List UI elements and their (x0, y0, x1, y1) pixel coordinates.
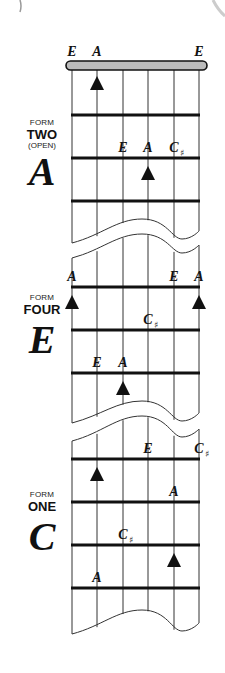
form-key: A (12, 152, 72, 192)
decor-layer (20, 0, 225, 16)
note-name: A (66, 269, 76, 284)
sharp-sign: ♯ (180, 148, 184, 158)
root-marker-triangle (192, 295, 206, 309)
root-marker-triangle (116, 381, 130, 395)
root-marker-triangle (167, 553, 181, 567)
note-name: A (168, 484, 178, 499)
form-number: TWO (12, 128, 72, 141)
note-name: E (193, 44, 203, 59)
note-label: E (142, 441, 152, 456)
form-two-label: FORM TWO (OPEN) A (12, 118, 72, 192)
note-name: C (118, 527, 128, 542)
corner-mark-left (20, 0, 21, 12)
form-key: E (12, 320, 72, 360)
break-wave-bottom (72, 219, 199, 243)
note-name: A (91, 570, 101, 585)
note-label: A (117, 355, 127, 370)
note-name: C (169, 140, 179, 155)
note-label: A (142, 140, 152, 155)
break-layer (72, 219, 199, 634)
frets-layer (66, 61, 207, 588)
root-marker-triangle (90, 467, 104, 481)
corner-arc-right (213, 0, 225, 16)
note-name: A (91, 44, 101, 59)
nut (66, 61, 207, 70)
note-label: C♯ (194, 441, 209, 459)
break-wave-bottom (72, 610, 199, 634)
note-name: A (193, 269, 203, 284)
note-label: C♯ (169, 140, 184, 158)
root-marker-triangle (90, 76, 104, 90)
note-label: A (66, 269, 76, 284)
form-four-label: FORM FOUR E (12, 293, 72, 360)
break-wave-top (72, 234, 199, 258)
form-one-label: FORM ONE C (12, 490, 72, 557)
note-label: A (91, 570, 101, 585)
note-name: E (66, 44, 76, 59)
break-wave-top (72, 416, 199, 441)
note-label: C♯ (143, 312, 158, 330)
note-name: E (117, 140, 127, 155)
fretboard-diagram: EAEEAC♯AEAC♯EAEC♯AC♯A FORM TWO (OPEN) A … (0, 0, 225, 673)
note-name: E (91, 355, 101, 370)
form-key: C (12, 517, 72, 557)
note-name: E (142, 441, 152, 456)
note-label: A (91, 44, 101, 59)
form-number: ONE (12, 500, 72, 513)
note-name: A (142, 140, 152, 155)
note-name: C (143, 312, 153, 327)
note-label: C♯ (118, 527, 133, 545)
root-marker-triangle (141, 166, 155, 180)
note-label: E (193, 44, 203, 59)
sharp-sign: ♯ (154, 320, 158, 330)
root-markers-layer (65, 76, 206, 567)
note-label: E (168, 269, 178, 284)
note-label: A (168, 484, 178, 499)
note-name: C (194, 441, 204, 456)
sharp-sign: ♯ (205, 449, 209, 459)
note-label: E (91, 355, 101, 370)
form-number: FOUR (12, 303, 72, 316)
note-labels-layer: EAEEAC♯AEAC♯EAEC♯AC♯A (66, 44, 209, 585)
note-label: E (66, 44, 76, 59)
break-wave-bottom (72, 401, 199, 423)
note-label: A (193, 269, 203, 284)
note-name: A (117, 355, 127, 370)
sharp-sign: ♯ (129, 535, 133, 545)
note-name: E (168, 269, 178, 284)
note-label: E (117, 140, 127, 155)
